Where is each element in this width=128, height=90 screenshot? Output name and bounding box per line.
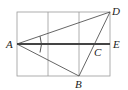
label-d: D xyxy=(111,5,120,17)
geometry-diagram: A B C D E xyxy=(0,0,128,90)
label-e: E xyxy=(112,38,120,50)
label-b: B xyxy=(75,78,82,90)
segment-ad xyxy=(17,12,110,44)
label-c: C xyxy=(94,46,102,58)
label-a: A xyxy=(5,38,13,50)
